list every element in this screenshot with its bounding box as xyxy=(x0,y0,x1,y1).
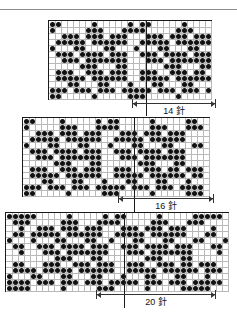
chart-2-caption: 16 針 xyxy=(118,199,214,212)
chart-3-caption: 20 針 xyxy=(96,295,216,308)
chart-2-measure: 16 針 xyxy=(118,194,214,206)
top-divider-rule xyxy=(0,9,237,10)
chart-1-measure: 14 針 xyxy=(132,99,216,111)
chart-3-grid xyxy=(5,212,229,292)
chart-3-cell xyxy=(222,285,229,292)
chart-1-caption: 14 針 xyxy=(132,104,216,117)
chart-3-measure: 20 針 xyxy=(96,290,216,302)
chart-1-grid xyxy=(48,20,212,100)
chart-2-grid xyxy=(22,117,210,197)
